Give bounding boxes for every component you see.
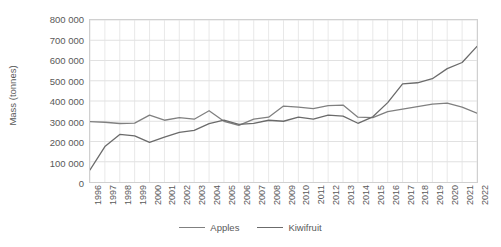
x-tick-label: 2010 <box>301 185 311 205</box>
y-tick-label: 800 000 <box>50 14 84 25</box>
chart-legend: ApplesKiwifruit <box>0 222 501 233</box>
x-tick-label: 1996 <box>93 185 103 205</box>
x-tick-label: 2013 <box>346 185 356 205</box>
plot-area <box>89 19 478 183</box>
legend-item-apples[interactable]: Apples <box>179 222 239 233</box>
x-tick-label: 2011 <box>316 185 326 204</box>
y-axis-title: Mass (tonnes) <box>2 0 22 190</box>
x-tick-label: 2005 <box>227 185 237 205</box>
y-tick-label: 600 000 <box>50 55 84 66</box>
x-axis-tick-labels: 1996199719981999200020012002200320042005… <box>89 185 478 225</box>
legend-swatch-icon <box>179 227 205 228</box>
legend-swatch-icon <box>257 227 283 228</box>
x-tick-label: 2012 <box>331 185 341 205</box>
x-tick-label: 2015 <box>376 185 386 205</box>
plot-svg <box>90 20 477 182</box>
legend-item-kiwifruit[interactable]: Kiwifruit <box>257 222 321 233</box>
x-tick-label: 2006 <box>242 185 252 205</box>
line-chart: Mass (tonnes) 800 000700 000600 000500 0… <box>0 0 501 247</box>
x-tick-label: 2022 <box>480 185 490 205</box>
x-tick-label: 2002 <box>182 185 192 205</box>
x-tick-label: 2009 <box>287 185 297 205</box>
x-tick-label: 2016 <box>391 185 401 205</box>
legend-label: Kiwifruit <box>288 222 321 233</box>
x-tick-label: 2008 <box>272 185 282 205</box>
y-tick-label: 200 000 <box>50 137 84 148</box>
x-tick-label: 2003 <box>197 185 207 205</box>
x-tick-label: 2001 <box>167 185 177 205</box>
y-tick-label: 0 <box>79 178 84 189</box>
x-tick-label: 2007 <box>257 185 267 205</box>
x-tick-label: 1997 <box>108 185 118 205</box>
x-tick-label: 2000 <box>153 185 163 205</box>
x-tick-label: 2019 <box>435 185 445 205</box>
x-tick-label: 1999 <box>138 185 148 205</box>
y-axis-title-text: Mass (tonnes) <box>7 65 18 125</box>
x-tick-label: 2018 <box>420 185 430 205</box>
x-tick-label: 2004 <box>212 185 222 205</box>
x-tick-label: 1998 <box>123 185 133 205</box>
y-axis-tick-labels: 800 000700 000600 000500 000400 000300 0… <box>24 0 86 190</box>
x-tick-label: 2014 <box>361 185 371 205</box>
x-tick-label: 2020 <box>450 185 460 205</box>
y-tick-label: 300 000 <box>50 116 84 127</box>
y-tick-label: 500 000 <box>50 75 84 86</box>
legend-label: Apples <box>210 222 239 233</box>
y-tick-label: 700 000 <box>50 34 84 45</box>
y-tick-label: 100 000 <box>50 157 84 168</box>
x-tick-label: 2021 <box>465 185 475 205</box>
y-tick-label: 400 000 <box>50 96 84 107</box>
x-tick-label: 2017 <box>406 185 416 205</box>
